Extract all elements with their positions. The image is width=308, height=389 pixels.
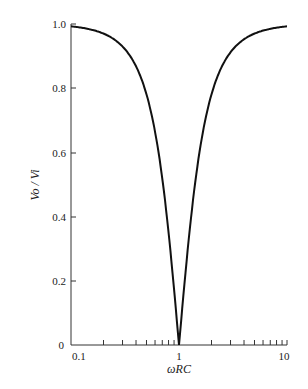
svg-text:0: 0 (59, 339, 65, 351)
svg-text:0.4: 0.4 (52, 211, 66, 223)
chart: 1.0 0.8 0.6 0.4 0.2 0 0.1 1 10 ωRC Vo / … (0, 0, 308, 389)
y-axis-label: Vo / Vi (28, 169, 42, 200)
x-tick-labels: 0.1 1 10 (72, 350, 290, 362)
y-axis (71, 24, 76, 345)
svg-text:10: 10 (279, 350, 291, 362)
svg-text:1: 1 (176, 350, 182, 362)
svg-text:0.6: 0.6 (52, 147, 66, 159)
x-axis-label: ωRC (167, 362, 192, 376)
svg-text:0.1: 0.1 (72, 350, 86, 362)
y-tick-labels: 1.0 0.8 0.6 0.4 0.2 0 (52, 18, 66, 351)
svg-text:0.2: 0.2 (52, 275, 66, 287)
svg-text:0.8: 0.8 (52, 82, 66, 94)
data-line (71, 26, 287, 345)
svg-text:1.0: 1.0 (52, 18, 66, 30)
